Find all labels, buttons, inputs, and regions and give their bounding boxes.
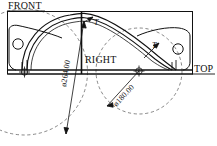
- circle-264-construction: [0, 9, 88, 135]
- view-label-front: FRONT: [8, 1, 42, 11]
- baseline-group: [8, 70, 193, 74]
- right-lug-outline: [137, 28, 190, 36]
- drawing-canvas: [0, 0, 217, 146]
- right-lug: [137, 28, 190, 70]
- dim-264-arrow-bottom: [64, 127, 69, 134]
- left-lug-hole: [13, 39, 23, 49]
- view-label-right: RIGHT: [85, 55, 117, 65]
- left-lug: [9, 25, 62, 70]
- right-lug-lower: [183, 36, 190, 70]
- drawing-sheet: FRONT RIGHT TOP ø264.00 ø180.00 T T: [0, 0, 217, 146]
- left-lug-outline: [9, 25, 62, 38]
- tangent-label-left: T: [94, 19, 98, 27]
- center-mark-left: [19, 67, 30, 78]
- left-lug-lower: [9, 30, 16, 70]
- view-label-top: TOP: [194, 64, 213, 74]
- tangent-label-right: T: [152, 42, 156, 50]
